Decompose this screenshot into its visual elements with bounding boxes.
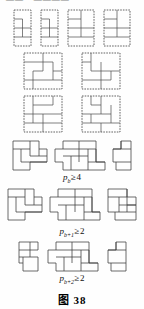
label-pb1-value: 2 bbox=[80, 226, 85, 236]
figure-d5 bbox=[23, 52, 63, 90]
label-pb: pb≥4 bbox=[0, 172, 144, 184]
figure-s3 bbox=[112, 140, 132, 171]
figure-s9 bbox=[107, 241, 127, 272]
page-bleed-text: —— • ———— bbox=[0, 0, 144, 6]
figure-caption: 图 38 bbox=[0, 291, 144, 307]
figure-d8 bbox=[81, 95, 121, 133]
dashed-row-1 bbox=[0, 9, 144, 47]
solid-section-pb bbox=[0, 140, 144, 171]
dashed-row-3 bbox=[0, 95, 144, 133]
label-pb1-subscript: b+1 bbox=[64, 232, 74, 238]
figure-s4 bbox=[7, 188, 43, 221]
figure-s6 bbox=[107, 188, 137, 221]
figure-d7 bbox=[23, 95, 63, 133]
figure-page: —— • ———— bbox=[0, 0, 144, 309]
figure-s8 bbox=[47, 241, 99, 272]
figure-s1 bbox=[12, 140, 48, 171]
figure-s5 bbox=[49, 188, 101, 221]
solid-section-pb2 bbox=[0, 241, 144, 272]
dashed-row-2 bbox=[0, 52, 144, 90]
figure-s7 bbox=[18, 241, 39, 272]
solid-section-pb1 bbox=[0, 188, 144, 221]
figure-d4 bbox=[103, 9, 131, 47]
figure-d2 bbox=[40, 9, 59, 47]
label-pb2: pb+2≥2 bbox=[0, 273, 144, 285]
label-pb-value: 4 bbox=[76, 172, 81, 182]
label-pb2-subscript: b+2 bbox=[64, 279, 74, 285]
figure-d3 bbox=[67, 9, 95, 47]
figure-d6 bbox=[81, 52, 121, 90]
label-pb1: pb+1≥2 bbox=[0, 226, 144, 238]
bleed-text-line: —— • ———— bbox=[0, 0, 144, 4]
figure-d1 bbox=[13, 9, 32, 47]
figure-s2 bbox=[54, 140, 106, 171]
label-pb2-value: 2 bbox=[80, 273, 85, 283]
